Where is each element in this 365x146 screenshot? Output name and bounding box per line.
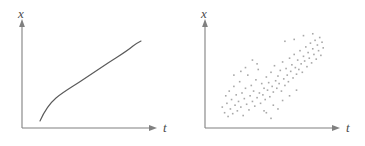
scatter-point: [303, 35, 305, 37]
two-panel-figure: x t x t: [0, 0, 365, 146]
scatter-point: [284, 40, 286, 42]
scatter-point: [226, 103, 228, 105]
scatter-point: [267, 89, 269, 91]
scatter-point: [252, 101, 254, 103]
scatter-point: [308, 57, 310, 59]
scatter-point: [315, 58, 317, 60]
scatter-point: [273, 91, 275, 93]
scatter-point: [245, 67, 247, 69]
scatter-point: [261, 83, 263, 85]
scatter-point: [273, 104, 275, 106]
scatter-point: [279, 70, 281, 72]
scatter-point: [225, 95, 227, 97]
scatter-point: [291, 64, 293, 66]
scatter-point: [305, 46, 307, 48]
scatter-point: [310, 42, 312, 44]
y-axis-label-right: x: [200, 6, 207, 21]
scatter-point: [255, 79, 257, 81]
scatter-point: [270, 72, 272, 74]
scatter-point: [271, 86, 273, 88]
scatter-point: [312, 48, 314, 50]
scatter-point: [282, 61, 284, 63]
scatter-point: [248, 109, 250, 111]
scatter-point: [268, 82, 270, 84]
scatter-point: [302, 72, 304, 74]
scatter-point: [233, 74, 235, 76]
scatter-point: [304, 60, 306, 62]
scatter-point: [286, 74, 288, 76]
scatter-point: [293, 54, 295, 56]
scatter-point: [312, 33, 314, 35]
scatter-point: [300, 63, 302, 65]
scatter-point: [240, 106, 242, 108]
x-axis-arrowhead-right: [332, 125, 340, 131]
scatter-point: [313, 54, 315, 56]
scatter-point: [232, 113, 234, 115]
scatter-point: [254, 105, 256, 107]
scatter-point: [289, 95, 291, 97]
scatter-point: [244, 98, 246, 100]
scatter-point: [263, 87, 265, 89]
scatter-point: [275, 80, 277, 82]
scatter-point: [321, 41, 323, 43]
scatter-point: [306, 66, 308, 68]
scatter-point: [241, 92, 243, 94]
scatter-point: [237, 110, 239, 112]
scatter-point: [296, 73, 298, 75]
scatter-point: [307, 52, 309, 54]
scatter-point: [317, 44, 319, 46]
scatter-point: [224, 112, 226, 114]
scatter-point: [266, 76, 268, 78]
scatter-point: [256, 63, 258, 65]
sigmoid-curve: [40, 41, 141, 121]
x-axis-label-left: t: [163, 120, 167, 135]
scatter-point: [298, 69, 300, 71]
scatter-point: [250, 85, 252, 87]
scatter-point: [231, 99, 233, 101]
scatter-point: [282, 100, 284, 102]
scatter-point: [299, 50, 301, 52]
scatter-point: [247, 74, 249, 76]
scatter-point: [252, 59, 254, 61]
scatter-point: [230, 108, 232, 110]
scatter-point: [293, 39, 295, 41]
scatter-point: [264, 99, 266, 101]
scatter-point: [242, 115, 244, 117]
scatter-point-group: [221, 33, 324, 119]
scatter-point: [318, 50, 320, 52]
scatter-point: [245, 87, 247, 89]
scatter-point: [322, 47, 324, 49]
x-axis-label-right: t: [346, 120, 350, 135]
scatter-plot-svg: x t: [183, 0, 365, 146]
scatter-point: [246, 103, 248, 105]
scatter-point: [278, 83, 280, 85]
scatter-point: [296, 89, 298, 91]
scatter-point: [256, 97, 258, 99]
scatter-point: [262, 94, 264, 96]
scatter-point: [319, 37, 321, 39]
scatter-point: [276, 87, 278, 89]
scatter-point: [253, 90, 255, 92]
scatter-point: [228, 90, 230, 92]
scatter-point: [259, 92, 261, 94]
scatter-point: [263, 110, 265, 112]
scatter-point: [234, 104, 236, 106]
scatter-point: [320, 55, 322, 57]
scatter-point: [284, 85, 286, 87]
scatter-point: [295, 67, 297, 69]
scatter-point: [235, 94, 237, 96]
scatter-point: [238, 101, 240, 103]
scatter-point: [270, 118, 272, 120]
scatter-point: [221, 106, 223, 108]
scatter-point: [227, 116, 229, 118]
scatter-point: [240, 71, 242, 73]
scatter-point: [292, 77, 294, 79]
scatter-point: [297, 59, 299, 61]
scatter-point: [249, 95, 251, 97]
scatter-point: [277, 75, 279, 77]
scatter-point: [260, 103, 262, 105]
scatter-point: [290, 71, 292, 73]
scatter-point: [303, 56, 305, 58]
scatter-panel: x t: [183, 0, 365, 146]
scatter-point: [239, 81, 241, 83]
